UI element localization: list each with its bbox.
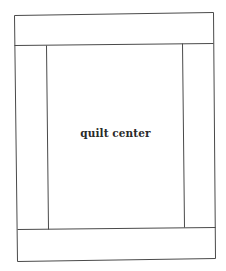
quilt-diagram: quilt center bbox=[0, 0, 226, 271]
quilt-center-label: quilt center bbox=[48, 127, 183, 139]
bottom-border-divider bbox=[18, 228, 216, 230]
top-border-divider bbox=[15, 44, 214, 46]
